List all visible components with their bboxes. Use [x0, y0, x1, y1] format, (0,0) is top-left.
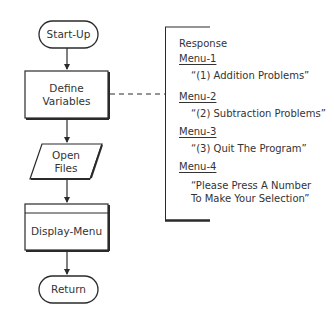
open-label-line1: Open	[36, 149, 96, 162]
open-files-label: Open Files	[36, 149, 96, 175]
start-up-label: Start-Up	[39, 28, 98, 41]
annotation-text: Response Menu-1 “(1) Addition Problems” …	[179, 37, 314, 205]
define-label-line2: Variables	[25, 95, 108, 108]
menu-1-value: “(1) Addition Problems”	[191, 69, 326, 82]
menu-2-value: “(2) Subtraction Problems”	[191, 107, 326, 120]
define-label-line1: Define	[25, 82, 108, 95]
menu-3-value: “(3) Quit The Program”	[191, 142, 326, 155]
annotation-title: Response	[179, 37, 314, 50]
menu-4-name: Menu-4	[179, 160, 314, 173]
menu-1-name: Menu-1	[179, 52, 314, 65]
menu-4-value-line2: To Make Your Selection”	[191, 192, 326, 205]
menu-3-name: Menu-3	[179, 125, 314, 138]
display-menu-label: Display-Menu	[25, 225, 108, 238]
return-label: Return	[39, 283, 98, 296]
menu-2-name: Menu-2	[179, 90, 314, 103]
define-variables-label: Define Variables	[25, 82, 108, 108]
menu-4-value-line1: “Please Press A Number	[191, 179, 326, 192]
open-label-line2: Files	[36, 162, 96, 175]
